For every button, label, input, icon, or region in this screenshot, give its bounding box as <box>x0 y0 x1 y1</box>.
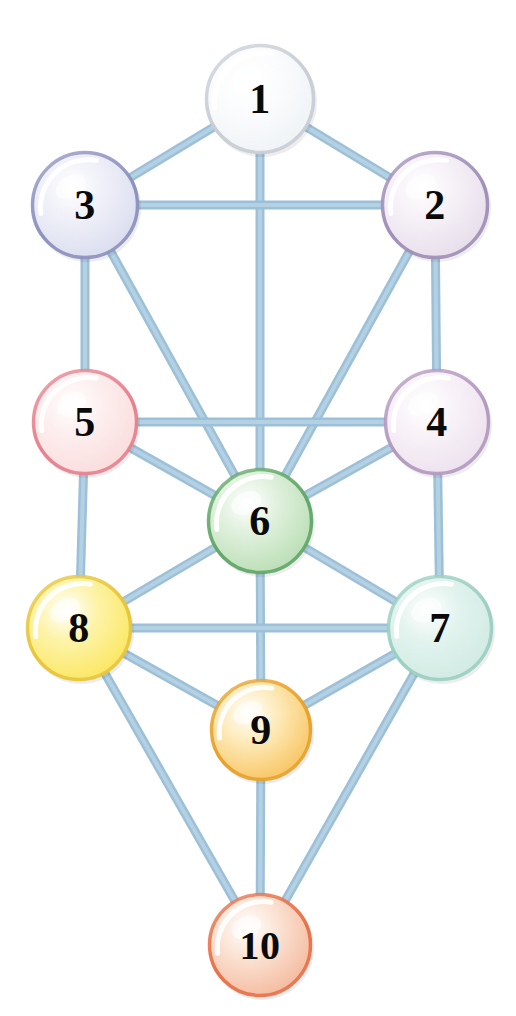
node-8[interactable]: 8 <box>28 577 135 685</box>
node-circle-7[interactable] <box>389 577 492 680</box>
node-2[interactable]: 2 <box>383 153 492 263</box>
diagram-canvas: 12345678910 <box>0 0 516 1016</box>
node-5[interactable]: 5 <box>34 371 141 479</box>
node-9[interactable]: 9 <box>212 681 315 785</box>
node-4[interactable]: 4 <box>386 371 493 479</box>
node-circle-1[interactable] <box>207 46 314 153</box>
node-circle-5[interactable] <box>34 371 137 474</box>
node-1[interactable]: 1 <box>207 46 318 158</box>
node-circle-9[interactable] <box>212 681 311 780</box>
node-circle-10[interactable] <box>210 895 311 996</box>
node-circle-8[interactable] <box>28 577 131 680</box>
node-6[interactable]: 6 <box>209 470 316 578</box>
node-7[interactable]: 7 <box>389 577 496 685</box>
node-3[interactable]: 3 <box>33 153 142 263</box>
node-circle-3[interactable] <box>33 153 138 258</box>
node-circle-6[interactable] <box>209 470 312 573</box>
node-circle-4[interactable] <box>386 371 489 474</box>
node-10[interactable]: 10 <box>210 895 315 1001</box>
tree-of-life-diagram: 12345678910 <box>0 0 516 1016</box>
node-circle-2[interactable] <box>383 153 488 258</box>
